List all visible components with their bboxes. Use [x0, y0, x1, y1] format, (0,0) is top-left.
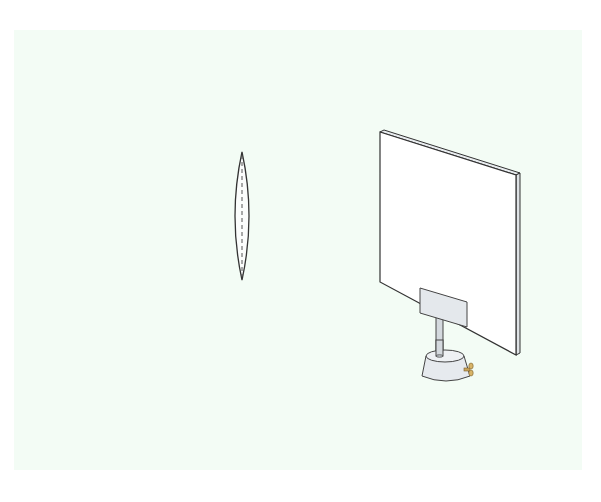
- screen-stand: [420, 288, 473, 381]
- optics-scene: [0, 0, 601, 502]
- convex-lens: [235, 152, 249, 280]
